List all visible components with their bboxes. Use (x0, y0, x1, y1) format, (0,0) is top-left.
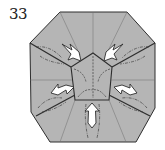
origami-diagram (0, 0, 165, 150)
